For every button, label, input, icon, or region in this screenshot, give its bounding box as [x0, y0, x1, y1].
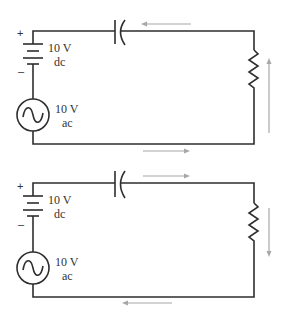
wire-top-right	[121, 31, 254, 50]
wire-top	[33, 31, 115, 44]
battery-negative-sign: –	[18, 218, 25, 230]
battery-type-label: dc	[54, 207, 65, 221]
circuit-diagrams: + – 10 V dc 10 V ac	[0, 0, 286, 315]
dc-battery-icon	[23, 44, 43, 64]
ac-voltage-label: 10 V	[55, 102, 79, 116]
ac-voltage-label: 10 V	[55, 255, 79, 269]
wire-top	[33, 183, 115, 196]
battery-voltage-label: 10 V	[48, 41, 72, 55]
current-arrow-bottom-right	[143, 149, 190, 154]
current-arrow-right-down	[267, 208, 272, 257]
current-arrow-top-left	[141, 22, 191, 27]
circuit-2: + – 10 V dc 10 V ac	[17, 171, 272, 306]
current-arrow-right-up	[267, 58, 272, 133]
ac-source-icon	[17, 99, 49, 131]
circuit-1: + – 10 V dc 10 V ac	[17, 20, 272, 154]
battery-negative-sign: –	[18, 65, 25, 77]
battery-voltage-label: 10 V	[48, 193, 72, 207]
ac-source-icon	[17, 252, 49, 284]
capacitor-icon	[115, 20, 125, 45]
current-arrow-top-right	[143, 174, 190, 179]
dc-battery-icon	[23, 196, 43, 216]
battery-positive-sign: +	[17, 27, 23, 39]
ac-type-label: ac	[62, 116, 73, 130]
battery-type-label: dc	[54, 55, 65, 69]
wire-top-right	[121, 183, 254, 203]
capacitor-icon	[115, 171, 125, 198]
battery-positive-sign: +	[17, 180, 23, 192]
ac-type-label: ac	[62, 269, 73, 283]
current-arrow-bottom-left	[122, 301, 172, 306]
resistor-icon	[249, 203, 258, 245]
resistor-icon	[249, 50, 258, 92]
